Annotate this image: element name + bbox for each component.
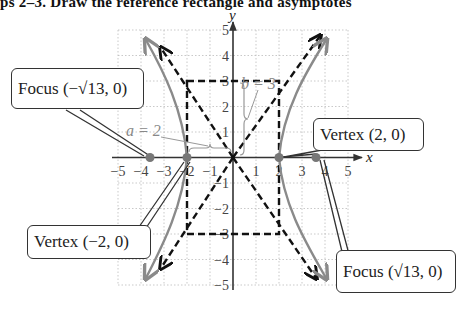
focus-left-coord: (−√13, 0)	[63, 79, 127, 99]
svg-text:−2: −2	[214, 202, 229, 217]
y-axis-label: y	[227, 7, 236, 23]
x-tick-labels: −5 −4 −3 −2 −1 1 2 3 4 5	[111, 164, 352, 179]
svg-text:−1: −1	[214, 176, 229, 191]
svg-text:−5: −5	[111, 164, 126, 179]
asymptote-positive-upper	[233, 36, 320, 158]
focus-left-point	[146, 153, 155, 162]
focus-right-coord: (√13, 0)	[388, 262, 443, 282]
vertex-left-point	[183, 153, 192, 162]
callout-vertex-left: Vertex (−2, 0)	[27, 225, 151, 259]
svg-text:5: 5	[222, 23, 229, 38]
svg-text:−4: −4	[214, 253, 229, 268]
b-label: b = 3	[241, 75, 276, 92]
svg-text:−4: −4	[134, 164, 149, 179]
focus-right-point	[312, 153, 321, 162]
vertex-right-point	[275, 153, 284, 162]
svg-text:−5: −5	[214, 278, 229, 293]
x-axis-label: x	[365, 149, 373, 165]
a-label: a = 2	[126, 122, 161, 139]
callout-focus-right: Focus (√13, 0)	[336, 250, 456, 293]
vertex-left-coord: (−2, 0)	[83, 232, 129, 252]
callout-focus-left: Focus (−√13, 0)	[11, 68, 144, 109]
svg-text:2: 2	[222, 100, 229, 115]
svg-text:1: 1	[222, 125, 229, 140]
svg-text:1: 1	[253, 164, 260, 179]
b-leader	[248, 90, 258, 118]
svg-text:5: 5	[345, 164, 352, 179]
svg-text:4: 4	[222, 49, 229, 64]
svg-text:3: 3	[299, 164, 306, 179]
callout-vertex-right: Vertex (2, 0)	[313, 118, 424, 151]
svg-text:−3: −3	[157, 164, 172, 179]
vertex-right-coord: (2, 0)	[369, 125, 406, 145]
